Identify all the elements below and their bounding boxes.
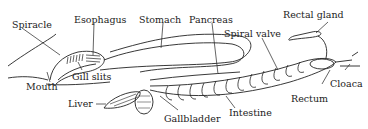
rectum	[310, 59, 334, 69]
body-outline	[8, 34, 56, 66]
label-gallbladder: Gallbladder	[164, 114, 220, 124]
label-esophagus: Esophagus	[74, 15, 126, 25]
label-intestine: Intestine	[229, 108, 272, 118]
diagram-canvas: Spiracle Esophagus Stomach Pancreas Rect…	[0, 0, 368, 129]
pancreas	[150, 72, 240, 80]
cloaca	[336, 52, 360, 66]
label-rectum: Rectum	[291, 94, 328, 104]
label-rectal-gland: Rectal gland	[283, 10, 344, 20]
label-cloaca: Cloaca	[330, 79, 363, 89]
gill-slits-marks	[67, 54, 101, 64]
label-stomach: Stomach	[139, 15, 181, 25]
label-liver: Liver	[68, 99, 93, 109]
label-mouth: Mouth	[26, 82, 58, 92]
label-gill-slits: Gill slits	[72, 72, 111, 82]
label-spiral-valve: Spiral valve	[224, 29, 281, 39]
label-spiracle: Spiracle	[12, 20, 52, 30]
label-pancreas: Pancreas	[189, 15, 233, 25]
